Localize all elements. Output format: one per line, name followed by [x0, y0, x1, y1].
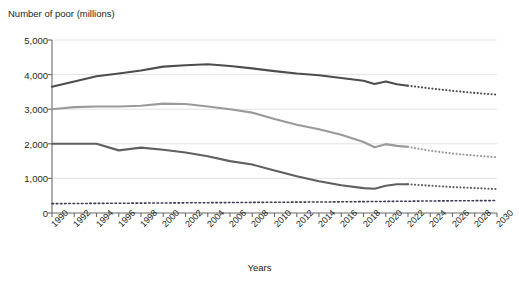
series-line-lower-line — [52, 144, 408, 189]
series-projection-upper-line — [408, 86, 497, 95]
chart-plot-area — [0, 0, 519, 284]
series-line-upper-line — [52, 64, 408, 86]
x-axis-title: Years — [0, 262, 519, 273]
series-line-baseline-dotted-line — [52, 201, 497, 204]
chart-container: Number of poor (millions) 01,0002,0003,0… — [0, 0, 519, 284]
series-projection-middle-line — [408, 147, 497, 157]
series-projection-lower-line — [408, 184, 497, 189]
series-line-middle-line — [52, 104, 408, 148]
